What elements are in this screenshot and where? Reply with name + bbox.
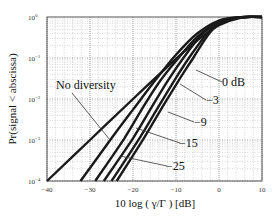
annotation-minus9: −9 — [194, 115, 207, 129]
annotation-minus3: −3 — [206, 93, 219, 107]
svg-text:10−2: 10−2 — [28, 95, 41, 104]
annotation-no-diversity: No diversity — [56, 78, 116, 92]
y-axis-label: Pr(signal < abscissa) — [6, 53, 19, 144]
x-tick-minus20: −20 — [128, 186, 139, 194]
y-tick-labels: 100 10−1 10−2 10−3 10−4 — [28, 13, 41, 186]
x-tick-minus10: −10 — [171, 186, 182, 194]
cdf-chart: 100 10−1 10−2 10−3 10−4 −40 −30 −20 −10 … — [0, 0, 276, 220]
x-tick-10: 10 — [259, 186, 267, 194]
x-tick-labels: −40 −30 −20 −10 0 10 — [42, 186, 266, 194]
annotation-minus15: −15 — [179, 136, 198, 150]
svg-text:10−3: 10−3 — [28, 136, 41, 145]
svg-text:10−1: 10−1 — [28, 54, 41, 63]
x-axis-label: 10 log ( γ/Γ ) [dB] — [115, 197, 196, 210]
grid — [47, 17, 262, 181]
annotation-0db: 0 dB — [222, 75, 245, 89]
leader-line — [168, 112, 194, 122]
svg-text:100: 100 — [28, 13, 38, 22]
x-tick-0: 0 — [217, 186, 221, 194]
svg-text:10−4: 10−4 — [28, 177, 41, 186]
leader-line — [72, 93, 110, 140]
x-tick-minus30: −30 — [85, 186, 96, 194]
leader-line — [196, 70, 222, 82]
x-tick-minus40: −40 — [42, 186, 53, 194]
annotation-minus25: −25 — [166, 159, 185, 173]
